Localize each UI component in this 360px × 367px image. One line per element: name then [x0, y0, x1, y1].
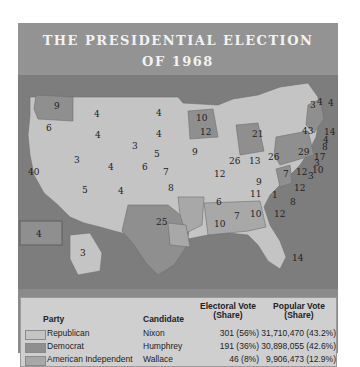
- party-name: Republican: [47, 328, 90, 338]
- svg-text:3: 3: [132, 141, 138, 151]
- svg-text:26: 26: [229, 156, 241, 166]
- svg-text:7: 7: [234, 211, 240, 221]
- svg-text:4: 4: [156, 129, 162, 139]
- svg-text:10: 10: [250, 209, 262, 219]
- svg-text:12: 12: [214, 169, 225, 179]
- svg-text:10: 10: [214, 219, 226, 229]
- svg-text:3: 3: [308, 171, 314, 181]
- svg-text:8: 8: [168, 183, 174, 193]
- svg-text:1: 1: [272, 190, 278, 200]
- svg-text:8: 8: [290, 197, 296, 207]
- popular-vote: 9,906,473 (12.9%): [266, 354, 336, 364]
- svg-text:7: 7: [283, 169, 289, 179]
- svg-text:3: 3: [74, 155, 80, 165]
- svg-text:9: 9: [256, 177, 262, 187]
- svg-text:6: 6: [216, 197, 222, 207]
- democrat-swatch: [25, 343, 46, 353]
- candidate-name: Nixon: [143, 328, 165, 338]
- svg-text:6: 6: [142, 162, 148, 172]
- legend-row-democrat: Democrat Humphrey 191 (36%) 30,898,055 (…: [21, 341, 338, 354]
- electoral-vote: 191 (36%): [220, 341, 259, 351]
- svg-text:7: 7: [163, 167, 169, 177]
- party-name: Democrat: [47, 341, 84, 351]
- svg-text:9: 9: [54, 101, 60, 111]
- american-independent-swatch: [25, 356, 46, 366]
- svg-text:4: 4: [328, 98, 334, 108]
- map-svg: 9 6 4 4 4 4 3 3 40 4 6 5 5 4 7 8 25 10 9…: [18, 75, 338, 289]
- popular-vote: 30,898,055 (42.6%): [261, 341, 336, 351]
- svg-text:4: 4: [156, 108, 162, 118]
- figure-header: THE PRESIDENTIAL ELECTION OF 1968: [18, 23, 338, 75]
- header-electoral-vote: Electoral Vote (Share): [193, 302, 263, 320]
- party-name: American Independent: [47, 354, 133, 364]
- svg-text:9: 9: [192, 147, 198, 157]
- election-map-figure: THE PRESIDENTIAL ELECTION OF 1968: [18, 23, 338, 353]
- svg-text:43: 43: [302, 126, 314, 136]
- svg-text:26: 26: [268, 152, 280, 162]
- svg-text:11: 11: [250, 189, 261, 199]
- svg-text:4: 4: [118, 186, 124, 196]
- header-popular-vote: Popular Vote (Share): [261, 302, 337, 320]
- svg-text:5: 5: [82, 185, 88, 195]
- svg-text:4: 4: [36, 229, 42, 239]
- candidate-name: Humphrey: [143, 341, 182, 351]
- header-party: Party: [43, 315, 64, 324]
- legend-row-american-independent: American Independent Wallace 46 (8%) 9,9…: [21, 354, 338, 367]
- svg-text:14: 14: [292, 253, 304, 263]
- electoral-vote: 301 (56%): [220, 328, 259, 338]
- header-candidate: Candidate: [143, 315, 184, 324]
- popular-vote: 31,710,470 (43.2%): [261, 328, 336, 338]
- us-electoral-map: 9 6 4 4 4 4 3 3 40 4 6 5 5 4 7 8 25 10 9…: [18, 75, 338, 289]
- svg-text:4: 4: [317, 97, 323, 107]
- electoral-vote: 46 (8%): [229, 354, 259, 364]
- svg-text:3: 3: [80, 248, 86, 258]
- svg-text:8: 8: [322, 142, 328, 152]
- svg-text:10: 10: [196, 113, 208, 123]
- figure-title-line-2: OF 1968: [18, 54, 338, 69]
- svg-text:12: 12: [274, 209, 285, 219]
- svg-text:21: 21: [252, 129, 263, 139]
- svg-text:10: 10: [312, 165, 324, 175]
- figure-title-line-1: THE PRESIDENTIAL ELECTION: [18, 33, 338, 48]
- svg-text:4: 4: [108, 162, 114, 172]
- svg-text:12: 12: [200, 127, 211, 137]
- svg-text:4: 4: [94, 109, 100, 119]
- svg-text:13: 13: [249, 156, 261, 166]
- svg-text:12: 12: [294, 183, 305, 193]
- svg-text:3: 3: [310, 100, 316, 110]
- svg-text:25: 25: [156, 217, 168, 227]
- svg-text:4: 4: [95, 130, 101, 140]
- legend-table: Party Candidate Electoral Vote (Share) P…: [20, 297, 337, 367]
- svg-text:5: 5: [154, 149, 160, 159]
- legend-row-republican: Republican Nixon 301 (56%) 31,710,470 (4…: [21, 328, 338, 341]
- svg-text:40: 40: [28, 167, 40, 177]
- republican-swatch: [25, 330, 46, 340]
- svg-text:6: 6: [46, 123, 52, 133]
- svg-text:29: 29: [298, 147, 310, 157]
- svg-text:12: 12: [296, 167, 307, 177]
- candidate-name: Wallace: [143, 354, 173, 364]
